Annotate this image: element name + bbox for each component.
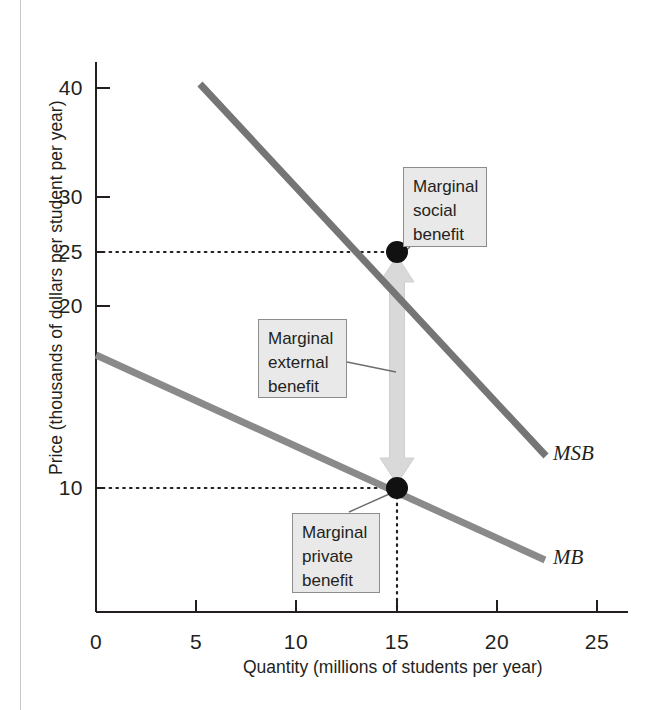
marginal-external-benefit-callout: Marginal external benefit	[258, 319, 347, 398]
marginal-social-benefit-callout: Marginal social benefit	[403, 167, 487, 247]
marginal-private-benefit-callout: Marginal private benefit	[292, 513, 380, 593]
x-tick-label-10: 10	[284, 630, 308, 654]
x-tick-marks	[96, 600, 597, 612]
msb-curve-label: MSB	[553, 441, 594, 466]
msb-curve	[200, 84, 546, 456]
economics-chart-figure: 40 30 25 20 10 0 5 10 15 20 25 Price (th…	[0, 0, 648, 710]
x-tick-label-25: 25	[585, 630, 609, 654]
x-tick-label-15: 15	[385, 630, 409, 654]
mb-curve-label: MB	[553, 545, 583, 570]
x-tick-label-5: 5	[190, 630, 202, 654]
y-tick-label-40: 40	[40, 76, 83, 100]
y-tick-marks	[96, 88, 110, 488]
x-tick-label-0: 0	[90, 630, 102, 654]
x-tick-label-20: 20	[485, 630, 509, 654]
x-axis-title: Quantity (millions of students per year)	[243, 657, 543, 678]
y-axis-title: Price (thousands of dollars per student …	[46, 101, 67, 476]
y-tick-label-10: 10	[40, 476, 83, 500]
mb-equilibrium-point	[386, 477, 408, 499]
leader-line-external	[347, 362, 396, 372]
